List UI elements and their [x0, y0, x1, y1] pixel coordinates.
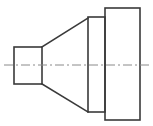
large-end-rectangle [105, 8, 140, 120]
upper-taper-line [42, 18, 88, 47]
drawing-svg [0, 0, 153, 126]
technical-drawing-canvas [0, 0, 153, 126]
lower-taper-line [42, 84, 88, 112]
